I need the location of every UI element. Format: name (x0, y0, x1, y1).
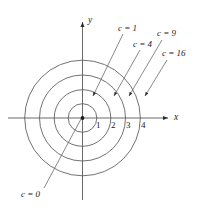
leader-c1 (93, 34, 123, 96)
x-tick-label-1: 1 (96, 121, 101, 130)
leader-c16 (145, 60, 167, 96)
contour-plot-figure: y x 1 2 3 4 c = 1 c = 4 c = 9 c = 16 c =… (0, 0, 197, 224)
x-tick-label-2: 2 (111, 121, 116, 130)
level-label-c1: c = 1 (118, 24, 137, 33)
callout-leaders (44, 34, 167, 188)
level-label-c0: c = 0 (21, 190, 40, 199)
level-label-c16: c = 16 (162, 49, 186, 58)
x-tick-label-3: 3 (126, 121, 131, 130)
y-axis-label: y (88, 16, 92, 26)
level-label-c4: c = 4 (133, 40, 152, 49)
x-tick-label-4: 4 (141, 121, 146, 130)
leader-c4 (114, 50, 140, 96)
x-axis-label: x (174, 113, 178, 123)
leader-c0 (44, 119, 81, 188)
level-label-c9: c = 9 (157, 29, 176, 38)
